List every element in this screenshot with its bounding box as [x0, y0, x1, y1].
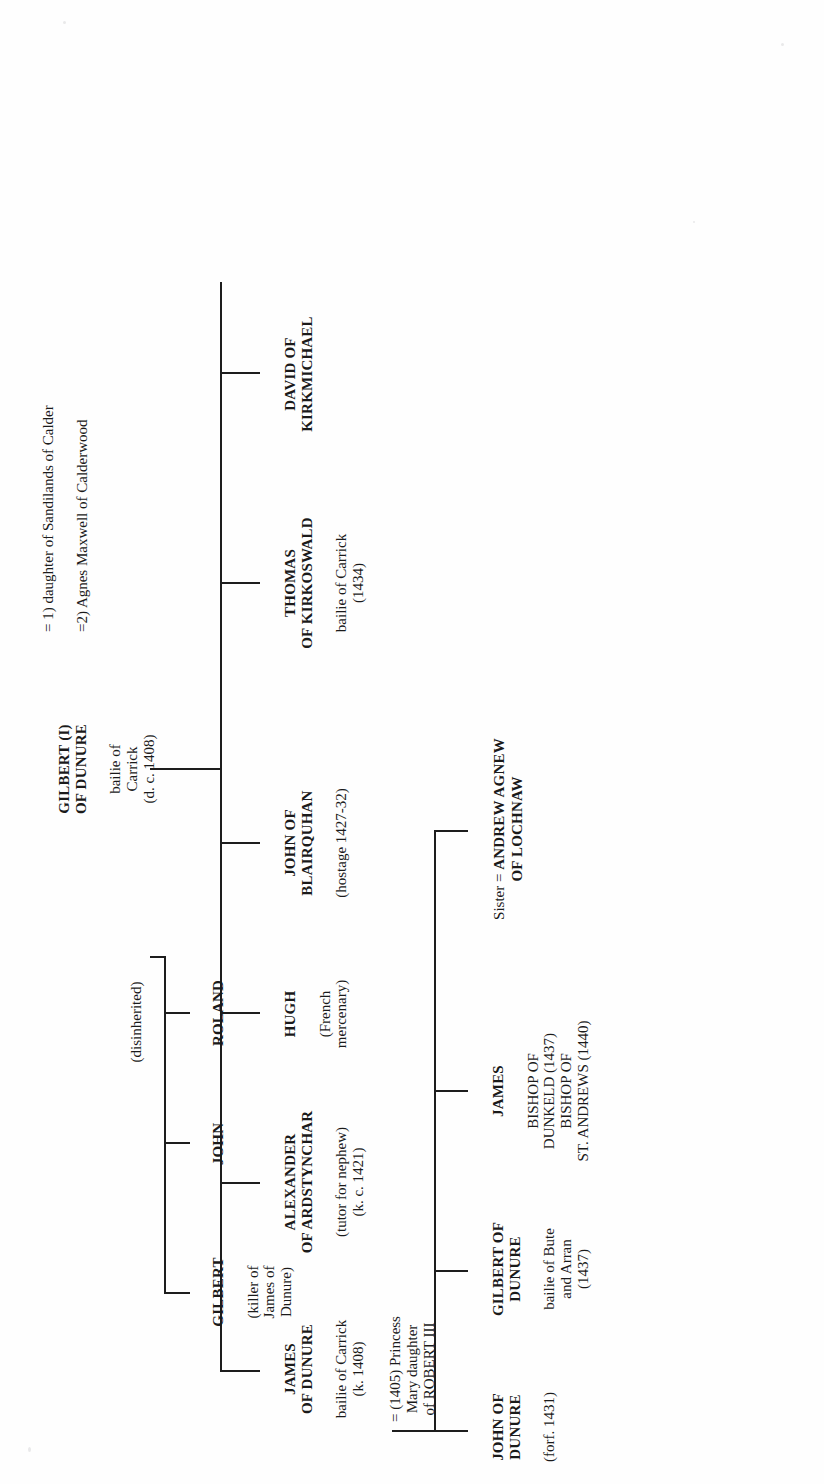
node-name: ANDREW AGNEW OF LOCHNAW: [491, 738, 525, 882]
node-name: THOMAS OF KIRKOSWALD: [282, 472, 316, 694]
root-stem: [150, 768, 220, 770]
drop-john: [164, 1142, 190, 1144]
generation-1-sibling-bar: [220, 282, 222, 1372]
disinherited-sibling-bar: [164, 958, 166, 1294]
scanned-page: GILBERT (I) OF DUNURE bailie of Carrick …: [0, 0, 824, 1484]
family-tree-canvas: GILBERT (I) OF DUNURE bailie of Carrick …: [0, 0, 824, 1484]
node-roland: ROLAND: [192, 942, 245, 1084]
node-name: GILBERT: [210, 1212, 227, 1372]
drop-roland: [164, 1012, 190, 1014]
node-name: GILBERT (I) OF DUNURE: [56, 654, 90, 884]
node-james-bishop: JAMES BISHOP OF DUNKELD (1437) BISHOP OF…: [472, 982, 610, 1200]
node-hugh: HUGH (French mercenary): [264, 926, 368, 1102]
node-name: GILBERT OF DUNURE: [490, 1188, 524, 1350]
node-marriage: = (1405) Princess Mary daughter of ROBER…: [387, 1264, 437, 1474]
node-detail: (French mercenary): [317, 926, 351, 1102]
drop-james-bishop: [434, 1090, 468, 1092]
drop-david: [220, 372, 260, 374]
disinherited-stem: [150, 956, 166, 958]
node-david-of-kirkmichael: DAVID OF KIRKMICHAEL: [264, 270, 351, 478]
node-detail: (hostage 1427-32): [333, 738, 350, 948]
node-john-of-blairquhan: JOHN OF BLAIRQUHAN (hostage 1427-32): [264, 738, 368, 948]
generation-2-sibling-bar: [434, 832, 436, 1432]
drop-sister: [434, 830, 468, 832]
node-name: JOHN OF BLAIRQUHAN: [282, 738, 316, 948]
sister-marriage-prefix: Sister =: [491, 870, 507, 920]
node-detail: bailie of Carrick (1434): [333, 472, 367, 694]
node-name: ROLAND: [210, 942, 227, 1084]
node-detail: (forf. 1431): [541, 1352, 558, 1484]
node-detail: (killer of James of Dunure): [245, 1212, 295, 1372]
node-john-of-dunure: JOHN OF DUNURE (forf. 1431): [472, 1352, 576, 1484]
drop-gilbert-killer: [164, 1292, 190, 1294]
marriage-2: =2) Agnes Maxwell of Calderwood: [74, 212, 91, 632]
drop-john-of-dunure: [434, 1430, 468, 1432]
node-detail: bailie of Carrick (k. 1408): [333, 1264, 367, 1474]
node-name: HUGH: [282, 926, 299, 1102]
node-gilbert-of-dunure: GILBERT OF DUNURE bailie of Bute and Arr…: [472, 1188, 610, 1350]
node-detail: bailie of Bute and Arran (1437): [541, 1188, 591, 1350]
node-gilbert-killer: GILBERT (killer of James of Dunure): [192, 1212, 313, 1372]
node-detail: (tutor for nephew) (k. c. 1421): [333, 1072, 367, 1292]
drop-gilbert-of-dunure: [434, 1270, 468, 1272]
node-sister-andrew-agnew: Sister = ANDREW AGNEW OF LOCHNAW: [472, 710, 526, 948]
note-disinherited: (disinherited): [128, 932, 145, 1112]
node-thomas-of-kirkoswald: THOMAS OF KIRKOSWALD bailie of Carrick (…: [264, 472, 385, 694]
drop-john-blairquhan: [220, 842, 260, 844]
node-name: JOHN: [210, 1082, 227, 1206]
marriage-1: = 1) daughter of Sandilands of Calder: [40, 212, 57, 632]
james-children-stem: [392, 1430, 434, 1432]
node-name: JAMES: [490, 982, 507, 1200]
node-detail: BISHOP OF DUNKELD (1437) BISHOP OF ST. A…: [525, 982, 592, 1200]
node-name: DAVID OF KIRKMICHAEL: [282, 270, 316, 478]
node-john-disinherited: JOHN: [192, 1082, 245, 1206]
drop-thomas: [220, 582, 260, 584]
node-name: JOHN OF DUNURE: [490, 1352, 524, 1484]
